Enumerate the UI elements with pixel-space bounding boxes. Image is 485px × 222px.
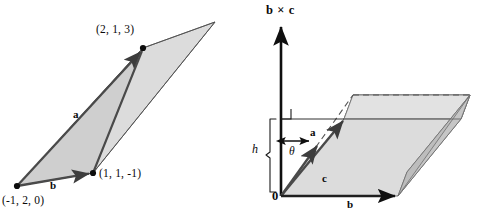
parallelepiped-upper-slant-face xyxy=(344,95,470,119)
left-coord-label-origin: (-1, 2, 0) xyxy=(2,195,44,207)
right-vector-b-label: b xyxy=(347,199,353,210)
right-vector-c-label: c xyxy=(322,173,327,184)
axis-b-cross-c-label: b × c xyxy=(266,4,295,17)
theta-angle-label: θ xyxy=(289,146,295,158)
height-label-h: h xyxy=(252,143,258,155)
right-vector-a-label: a xyxy=(310,127,316,138)
left-vertex-dot-origin xyxy=(14,183,20,189)
left-vector-b-label: b xyxy=(50,180,56,191)
right-diagram-group xyxy=(266,27,470,196)
left-vertex-dot-lower-right xyxy=(90,170,96,176)
left-vector-a-label: a xyxy=(73,109,79,120)
right-angle-marker xyxy=(281,109,291,119)
left-diagram-group xyxy=(14,22,215,189)
origin-label: 0 xyxy=(272,190,278,203)
height-bracket xyxy=(266,119,276,192)
left-coord-label-top: (2, 1, 3) xyxy=(96,24,134,36)
figure-root: (2, 1, 3) (1, 1, -1) (-1, 2, 0) a b b × … xyxy=(0,0,485,222)
left-vertex-dot-upper xyxy=(140,45,146,51)
left-coord-label-lower-right: (1, 1, -1) xyxy=(99,168,141,180)
